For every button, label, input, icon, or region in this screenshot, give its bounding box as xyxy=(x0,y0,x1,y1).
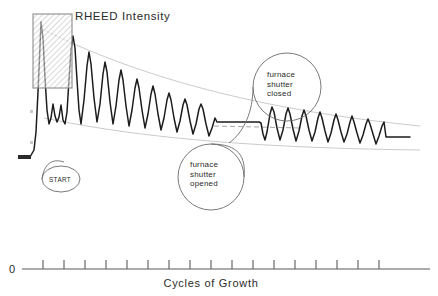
rheed-trace xyxy=(22,22,410,157)
rheed-plot-svg xyxy=(0,0,438,296)
x-axis-ticks xyxy=(43,260,379,269)
rheed-intensity-figure: RHEED Intensity Cycles of Growth 0 furna… xyxy=(0,0,438,296)
plateau-dashed-guide xyxy=(214,126,300,128)
page-title: RHEED Intensity xyxy=(75,10,170,22)
y-axis-ticks xyxy=(30,110,33,144)
annotation-shutter-closed: furnace shutter closed xyxy=(267,70,295,99)
y-axis-zero-label: 0 xyxy=(9,263,15,275)
annotation-start: START xyxy=(49,175,71,185)
decay-envelope xyxy=(40,28,420,150)
x-axis-title: Cycles of Growth xyxy=(164,277,259,289)
annotation-shutter-opened: furnace shutter opened xyxy=(190,160,218,189)
hatched-region-box xyxy=(33,14,72,88)
x-axis xyxy=(22,260,430,269)
start-baseline-marker xyxy=(18,155,31,159)
